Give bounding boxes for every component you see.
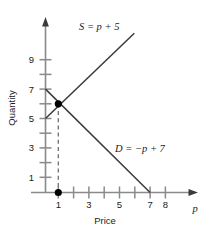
x-tick-label-5: 5 (117, 199, 122, 210)
y-tick-label-3: 3 (29, 142, 34, 153)
supply-demand-chart: 1 3 5 7 9 1 3 5 7 8 Price p Quantity S =… (0, 0, 211, 240)
x-axis-title: Price (94, 215, 116, 226)
curves-group (46, 33, 151, 192)
y-axis-title: Quantity (6, 90, 17, 126)
x-tick-label-7: 7 (147, 199, 152, 210)
x-axis-foot-marker (55, 189, 62, 196)
supply-equation-label: S = p + 5 (79, 21, 119, 32)
x-axis-variable-label: p (191, 203, 197, 214)
y-tick-label-1: 1 (29, 172, 34, 183)
equilibrium-group (55, 100, 62, 196)
y-axis-arrowhead (42, 17, 49, 27)
demand-equation-label: D = −p + 7 (114, 143, 166, 154)
x-tick-label-8: 8 (163, 199, 168, 210)
y-tick-label-7: 7 (29, 84, 34, 95)
y-tick-labels: 1 3 5 7 9 (29, 54, 34, 183)
chart-canvas: 1 3 5 7 9 1 3 5 7 8 Price p Quantity S =… (0, 0, 211, 240)
x-tick-label-3: 3 (86, 199, 91, 210)
equilibrium-point-marker (55, 100, 62, 107)
x-axis-arrowhead (189, 189, 199, 196)
y-tick-label-5: 5 (29, 113, 34, 124)
y-tick-label-9: 9 (29, 54, 34, 65)
x-tick-labels: 1 3 5 7 8 (56, 199, 168, 210)
x-tick-label-1: 1 (56, 199, 61, 210)
